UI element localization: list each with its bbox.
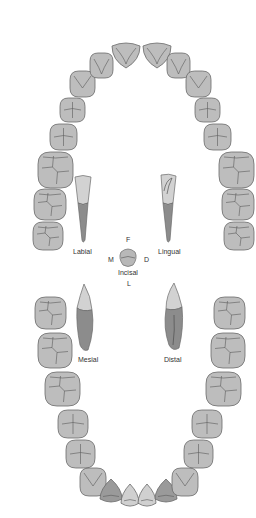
labial-crown — [75, 176, 91, 205]
lingual-label: Lingual — [158, 248, 181, 255]
lingual-crown — [161, 174, 176, 204]
distal-label: Distal — [164, 356, 182, 363]
upper-right-first-premolar — [60, 98, 85, 122]
dental-arch-diagram — [0, 0, 256, 518]
lingual-root — [163, 203, 173, 242]
lingual-view-incisor — [161, 174, 176, 242]
upper-left-canine — [186, 71, 211, 97]
lingual-l-label: L — [127, 280, 131, 287]
upper-arch — [33, 43, 254, 250]
labial-root — [78, 203, 88, 242]
lower-arch — [35, 297, 245, 506]
lower-left-second-premolar — [192, 410, 222, 438]
mesial-view-incisor — [77, 284, 93, 350]
upper-left-first-premolar — [195, 98, 220, 122]
mesial-crown — [77, 284, 92, 311]
upper-left-third-molar — [224, 222, 254, 250]
labial-label: Labial — [73, 248, 92, 255]
lower-left-central-incisor — [138, 484, 156, 506]
lower-left-second-molar — [211, 333, 245, 368]
upper-right-second-premolar — [50, 124, 77, 150]
upper-left-second-premolar — [204, 124, 231, 150]
mesial-label: Mesial — [78, 356, 98, 363]
incisal-view-tooth — [120, 249, 136, 267]
upper-left-first-molar — [219, 152, 254, 188]
mesial-root — [77, 308, 93, 350]
lower-left-canine — [172, 468, 198, 496]
lower-left-first-premolar — [184, 440, 213, 468]
upper-right-third-molar — [33, 222, 63, 250]
distal-d-label: D — [144, 256, 149, 263]
lower-left-first-molar — [206, 372, 241, 406]
upper-left-lateral-incisor — [167, 53, 190, 78]
upper-right-first-molar — [38, 152, 73, 188]
distal-crown — [166, 283, 182, 310]
lower-right-central-incisor — [121, 484, 139, 506]
upper-right-central-incisor — [112, 43, 140, 68]
lower-right-first-premolar — [66, 440, 95, 468]
lower-right-third-molar — [35, 297, 66, 329]
distal-root — [165, 307, 183, 349]
upper-right-second-molar — [34, 189, 66, 220]
incisal-label: Incisal — [118, 269, 138, 276]
lower-left-third-molar — [214, 297, 245, 329]
mesial-m-label: M — [108, 256, 114, 263]
facial-f-label: F — [126, 236, 130, 243]
lower-right-second-molar — [38, 333, 72, 368]
upper-right-lateral-incisor — [90, 53, 113, 78]
upper-left-second-molar — [222, 189, 254, 220]
lower-right-first-molar — [45, 372, 80, 406]
lower-right-second-premolar — [58, 410, 88, 438]
labial-view-incisor — [75, 176, 91, 243]
distal-view-incisor — [165, 283, 183, 349]
